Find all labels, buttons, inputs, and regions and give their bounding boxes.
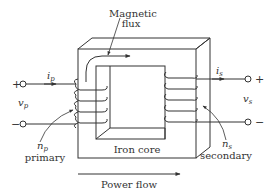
magnetic-flux-label-2: flux bbox=[122, 18, 141, 29]
primary-plus-sign: + bbox=[12, 78, 21, 91]
iron-core-label: Iron core bbox=[114, 144, 161, 155]
transformer-diagram: Magnetic flux Iron core Power flow + − +… bbox=[0, 0, 272, 194]
primary-pointer bbox=[40, 110, 73, 142]
secondary-plus-terminal[interactable] bbox=[245, 76, 251, 82]
secondary-voltage-label: vs bbox=[243, 93, 253, 106]
secondary-current-label: is bbox=[216, 65, 223, 78]
primary-minus-sign: − bbox=[11, 118, 20, 131]
secondary-minus-sign: − bbox=[255, 116, 264, 129]
primary-leads bbox=[26, 84, 76, 124]
secondary-pointer bbox=[203, 106, 226, 140]
secondary-label: secondary bbox=[200, 150, 252, 161]
primary-current-label: ip bbox=[47, 70, 55, 83]
secondary-plus-sign: + bbox=[255, 73, 264, 86]
secondary-minus-terminal[interactable] bbox=[245, 119, 251, 125]
primary-voltage-label: vp bbox=[18, 97, 29, 110]
secondary-leads bbox=[196, 79, 245, 122]
primary-minus-terminal[interactable] bbox=[20, 121, 26, 127]
primary-label: primary bbox=[25, 152, 66, 163]
power-flow-label: Power flow bbox=[101, 179, 157, 190]
